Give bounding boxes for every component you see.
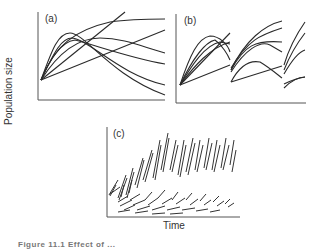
figure-caption: Figure 11.1 Effect of ... bbox=[18, 240, 115, 249]
panel-a: (a) bbox=[38, 12, 165, 100]
y-axis-label: Population size bbox=[3, 57, 14, 125]
panel-c-label: (c) bbox=[113, 128, 125, 139]
panel-a-label: (a) bbox=[45, 13, 57, 24]
panel-b-label: (b) bbox=[184, 15, 196, 26]
panel-b: (b) bbox=[176, 14, 306, 103]
panel-c: (c) bbox=[107, 127, 240, 217]
x-axis-label: Time bbox=[163, 220, 185, 231]
